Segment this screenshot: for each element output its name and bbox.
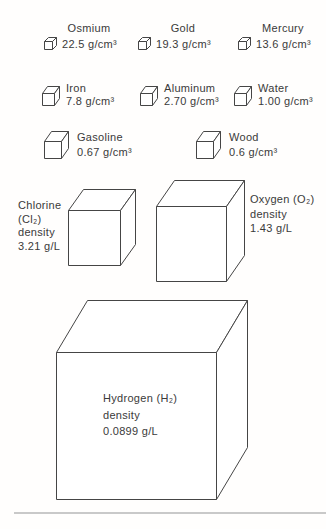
density-value: 2.70 g/cm³ — [164, 95, 219, 108]
substance-formula: (Cl₂) — [18, 213, 61, 227]
substance-name: Chlorine — [18, 199, 61, 213]
substance-name: Osmium — [61, 22, 117, 35]
density-item-water: Water 1.00 g/cm³ — [234, 82, 313, 108]
substance-name: Gasoline — [77, 130, 132, 145]
density-value: 0.67 g/cm³ — [77, 145, 132, 160]
density-value: 1.00 g/cm³ — [258, 95, 313, 108]
substance-name: Wood — [229, 130, 278, 145]
density-item-aluminum: Aluminum 2.70 g/cm³ — [140, 82, 219, 108]
substance-name: Gold — [155, 22, 211, 35]
density-word: density — [103, 407, 177, 424]
substance-name: Mercury — [255, 22, 311, 35]
iron-cube-icon — [42, 86, 60, 106]
density-value: 7.8 g/cm³ — [66, 95, 115, 108]
mercury-cube-icon — [238, 37, 251, 50]
density-value: 0.0899 g/L — [103, 423, 177, 440]
density-item-wood: Wood 0.6 g/cm³ — [196, 130, 278, 160]
density-value: 3.21 g/L — [18, 240, 61, 254]
density-value: 22.5 g/cm³ — [62, 38, 117, 50]
density-item-gold: Gold 19.3 g/cm³ — [138, 22, 211, 50]
osmium-cube-icon — [44, 37, 57, 50]
density-value: 1.43 g/L — [250, 221, 314, 236]
density-value: 0.6 g/cm³ — [229, 145, 278, 160]
substance-name: Water — [258, 82, 313, 95]
density-word: density — [250, 207, 314, 222]
density-word: density — [18, 226, 61, 240]
density-item-iron: Iron 7.8 g/cm³ — [42, 82, 115, 108]
chlorine-label: Chlorine (Cl₂) density 3.21 g/L — [18, 199, 61, 253]
density-value: 19.3 g/cm³ — [156, 38, 211, 50]
substance-name: Aluminum — [164, 82, 219, 95]
oxygen-volume-cube — [156, 180, 245, 282]
density-value: 13.6 g/cm³ — [256, 38, 311, 50]
bottom-rule — [14, 512, 326, 514]
density-item-osmium: Osmium 22.5 g/cm³ — [44, 22, 117, 50]
density-item-gasoline: Gasoline 0.67 g/cm³ — [44, 130, 132, 160]
substance-name: Iron — [66, 82, 115, 95]
hydrogen-label: Hydrogen (H₂) density 0.0899 g/L — [103, 390, 177, 440]
substance-name: Oxygen (O₂) — [250, 192, 314, 207]
chlorine-volume-cube — [68, 189, 136, 266]
aluminum-cube-icon — [140, 86, 158, 106]
gasoline-cube-icon — [44, 131, 69, 159]
substance-name: Hydrogen (H₂) — [103, 390, 177, 407]
gold-cube-icon — [138, 37, 151, 50]
oxygen-label: Oxygen (O₂) density 1.43 g/L — [250, 192, 314, 236]
water-cube-icon — [234, 86, 252, 106]
density-item-mercury: Mercury 13.6 g/cm³ — [238, 22, 311, 50]
density-comparison-figure: Osmium 22.5 g/cm³ Gold 19.3 g/cm³ Mercur… — [0, 0, 326, 529]
wood-cube-icon — [196, 131, 221, 159]
